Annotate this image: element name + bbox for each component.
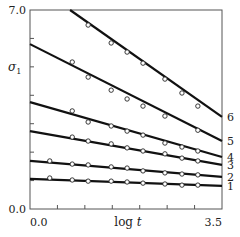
data-point [163,152,167,156]
data-point [125,129,129,133]
data-point [125,97,129,101]
data-point [163,141,167,145]
y-axis-ticks [30,38,34,180]
data-point [70,162,74,166]
data-point [196,149,200,153]
data-point [109,41,113,45]
data-point [109,124,113,128]
data-point [180,145,184,149]
fit-line [30,44,222,141]
series-4: 4 [30,102,234,164]
data-point [70,60,74,64]
data-point [180,183,184,187]
data-point [141,104,145,108]
data-point [180,91,184,95]
y-axis-label: σ1 [8,60,21,76]
data-point [86,75,90,79]
data-point [86,179,90,183]
series-group: 123456 [30,10,234,193]
data-point [86,163,90,167]
data-point [86,120,90,124]
data-point [109,179,113,183]
x-axis-ticks [57,205,194,209]
data-point [70,135,74,139]
data-point [196,183,200,187]
data-point [86,23,90,27]
x-axis-label: log t [114,215,142,229]
data-point [196,173,200,177]
data-point [163,182,167,186]
data-point [163,77,167,81]
data-point [48,176,52,180]
series-label: 2 [227,171,234,184]
series-label: 6 [227,111,234,124]
data-point [125,146,129,150]
data-point [196,104,200,108]
data-point [163,171,167,175]
data-point [109,165,113,169]
data-point [141,169,145,173]
data-point [86,139,90,143]
series-5: 5 [30,44,234,148]
data-point [70,178,74,182]
data-point [141,133,145,137]
data-point [180,156,184,160]
data-point [125,166,129,170]
data-point [109,142,113,146]
data-point [48,159,52,163]
y-tick-label-bottom: 0.0 [9,203,27,216]
x-tick-label-right: 3.5 [205,216,223,229]
series-label: 4 [227,151,234,164]
data-point [180,172,184,176]
data-point [109,88,113,92]
data-point [70,109,74,113]
data-point [196,159,200,163]
data-point [125,50,129,54]
data-point [141,149,145,153]
series-1: 1 [30,176,234,193]
data-point [125,180,129,184]
fit-line [70,10,222,117]
data-point [141,61,145,65]
y-tick-label-top: 7.0 [9,4,27,17]
chart: 123456 7.0 0.0 0.0 3.5 log t σ1 [0,0,240,237]
data-point [141,181,145,185]
series-label: 5 [227,135,234,148]
x-tick-label-left: 0.0 [30,216,48,229]
data-point [196,128,200,132]
data-point [163,114,167,118]
